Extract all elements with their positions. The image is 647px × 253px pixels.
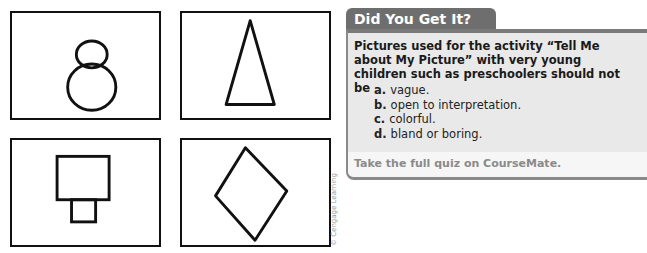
quiz-body: Pictures used for the activity “Tell Me …: [346, 29, 647, 180]
diamond-drawing: [182, 140, 329, 245]
figure-eight-drawing: [12, 13, 159, 118]
image-credit: © Cengage Learning: [330, 173, 338, 246]
quiz-options: a.vague. b.open to interpretation. c.col…: [374, 83, 521, 141]
quiz-box: Did You Get It? Pictures used for the ac…: [346, 8, 647, 180]
triangle-drawing: [182, 13, 329, 118]
square-on-rectangle-drawing: [12, 140, 159, 245]
quiz-option-a: a.vague.: [374, 83, 521, 98]
quiz-option-d: d.bland or boring.: [374, 127, 521, 142]
picture-panel-diamond: [180, 138, 331, 247]
picture-panel-triangle: [180, 11, 331, 120]
picture-panel-figure-eight: [10, 11, 161, 120]
quiz-option-b: b.open to interpretation.: [374, 98, 521, 113]
picture-panel-square: [10, 138, 161, 247]
quiz-title: Did You Get It?: [346, 8, 496, 30]
quiz-footer: Take the full quiz on CourseMate.: [348, 152, 647, 177]
quiz-option-c: c.colorful.: [374, 112, 521, 127]
coursemate-link-text: Take the full quiz on CourseMate.: [354, 157, 561, 170]
